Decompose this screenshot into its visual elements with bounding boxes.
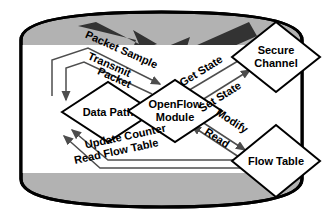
node-data-path-label: Data Path <box>83 106 134 118</box>
diagram-canvas: Data Path OpenFlow Module Secure Channel… <box>0 0 323 219</box>
node-flow-table-label: Flow Table <box>248 155 304 167</box>
node-secure-channel-label-line1: Secure <box>258 44 295 56</box>
node-openflow-module-label-line2: Module <box>156 111 195 123</box>
node-openflow-module-label-line1: OpenFlow <box>148 98 202 110</box>
openflow-architecture-diagram: Data Path OpenFlow Module Secure Channel… <box>0 0 323 219</box>
node-secure-channel-label-line2: Channel <box>254 57 297 69</box>
